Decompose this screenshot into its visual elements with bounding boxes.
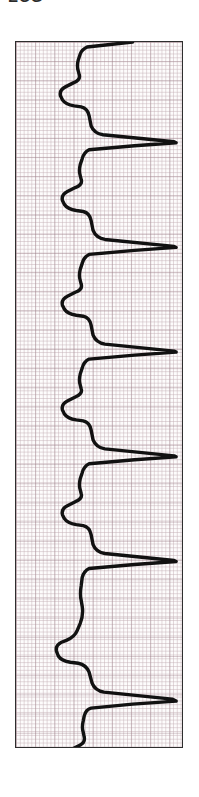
- ecg-trace-path: [56, 42, 176, 747]
- ecg-strip-frame: [15, 41, 183, 748]
- caption-fragment: ECG: [0, 0, 199, 7]
- caption-text: ECG: [8, 0, 44, 4]
- ecg-waveform: [16, 42, 182, 747]
